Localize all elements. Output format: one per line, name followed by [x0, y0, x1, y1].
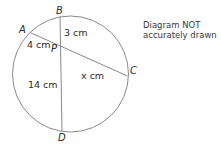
segment-bp-label: 3 cm — [64, 27, 88, 38]
point-d-label: D — [58, 132, 66, 143]
segment-ap-label: 4 cm — [27, 39, 51, 50]
point-b-label: B — [56, 5, 63, 16]
chord-bd — [60, 17, 62, 132]
diagram-note: Diagram NOT accurately drawn — [143, 20, 217, 40]
note-line-1: Diagram NOT — [143, 20, 217, 30]
point-p-label: P — [51, 43, 58, 54]
point-c-label: C — [130, 65, 137, 76]
segment-pc-label: x cm — [81, 70, 104, 81]
note-line-2: accurately drawn — [143, 30, 217, 40]
segment-pd-label: 14 cm — [28, 79, 58, 90]
point-a-label: A — [18, 24, 26, 35]
